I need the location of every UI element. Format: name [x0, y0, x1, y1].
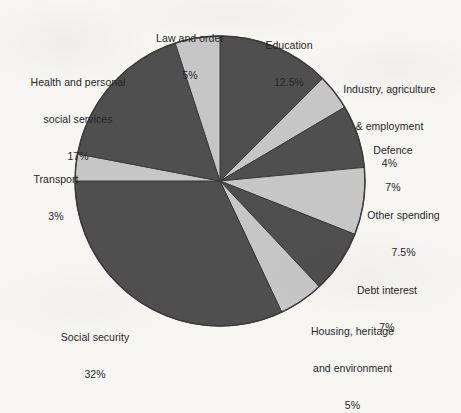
slice-label-value: 32%	[30, 368, 160, 380]
slice-label-value: 17%	[3, 150, 153, 162]
slice-label-name-line1: Health and personal	[3, 76, 153, 88]
slice-label-name: Education	[236, 39, 342, 51]
slice-label-name-line1: Industry, agriculture	[318, 83, 461, 95]
slice-label-name: Social security	[30, 331, 160, 343]
slice-label-name: Law and order	[130, 32, 250, 44]
slice-label-housing-heritage-environment: Housing, heritage and environment 5%	[280, 300, 425, 413]
slice-label-name: Debt interest	[332, 284, 442, 296]
slice-label-name: Other spending	[346, 209, 461, 221]
slice-label-name-line2: social services	[3, 113, 153, 125]
slice-label-value: 3%	[8, 210, 104, 222]
slice-label-other-spending: Other spending 7.5%	[346, 184, 461, 271]
slice-label-value: 7.5%	[346, 246, 461, 258]
slice-label-health-personal-social-services: Health and personal social services 17%	[3, 51, 153, 175]
slice-label-name: Defence	[343, 144, 443, 156]
slice-label-value: 5%	[280, 399, 425, 411]
slice-label-name-line2: and environment	[280, 362, 425, 374]
slice-label-name-line1: Housing, heritage	[280, 325, 425, 337]
slice-label-social-security: Social security 32%	[30, 306, 160, 393]
